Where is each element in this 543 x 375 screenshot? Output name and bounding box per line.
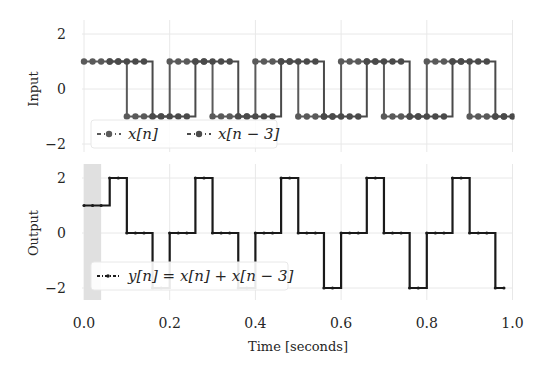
data-point [492,113,498,119]
data-point [305,231,308,234]
data-point [381,113,387,119]
data-point [278,58,284,64]
y-tick-label: −2 [45,136,66,152]
data-point [501,113,507,119]
legend-label-x: x[n] [128,125,158,143]
legend-label-xdelay: x[n − 3] [218,125,280,143]
data-point [100,204,103,207]
x-tick-label: 0.0 [73,315,95,331]
data-point [424,58,430,64]
data-point [175,58,181,64]
data-point [441,58,447,64]
data-point [425,231,428,234]
data-point [211,231,214,234]
data-point [115,58,121,64]
data-point [449,58,455,64]
data-point [389,58,395,64]
data-point [417,286,420,289]
y-tick-label: 0 [57,81,66,97]
data-point [475,58,481,64]
input-yticks: 20−2 [45,26,66,152]
data-point [82,204,85,207]
data-point [381,58,387,64]
data-point [226,58,232,64]
data-point [288,176,291,179]
data-point [124,113,130,119]
data-point [484,58,490,64]
data-point [329,113,335,119]
data-point [192,58,198,64]
data-point [158,113,164,119]
data-point [269,58,275,64]
data-point [415,113,421,119]
data-point [228,231,231,234]
data-point [372,58,378,64]
x-tick-label: 0.2 [159,315,181,331]
data-point [280,176,283,179]
data-point [314,231,317,234]
data-point [167,113,173,119]
data-point [432,58,438,64]
data-point [441,113,447,119]
data-point [357,231,360,234]
data-point [297,231,300,234]
data-point [312,113,318,119]
data-point [321,113,327,119]
data-point [209,113,215,119]
data-point [262,231,265,234]
data-point [304,113,310,119]
data-point [269,113,275,119]
data-point [117,176,120,179]
data-point [194,176,197,179]
data-point [477,231,480,234]
y-tick-label: 0 [57,225,66,241]
data-point [185,231,188,234]
data-point [331,286,334,289]
data-point [261,113,267,119]
x-ticks: 0.00.20.40.60.81.0 [73,315,524,331]
data-point [424,113,430,119]
data-point [348,231,351,234]
data-point [434,231,437,234]
x-tick-label: 0.6 [330,315,352,331]
data-point [218,113,224,119]
data-point [226,113,232,119]
x-tick-label: 0.8 [416,315,438,331]
data-point [81,58,87,64]
data-point [202,176,205,179]
data-point [466,58,472,64]
data-point [459,176,462,179]
data-point [201,58,207,64]
data-point [142,231,145,234]
data-point [494,286,497,289]
legend-label-y: y[n] = x[n] + x[n − 3] [127,267,293,285]
data-point [235,113,241,119]
data-point [252,113,258,119]
data-point [295,113,301,119]
data-point [355,113,361,119]
data-point [209,58,215,64]
data-point [338,58,344,64]
data-point [408,286,411,289]
data-point [389,113,395,119]
data-point [399,231,402,234]
data-point [398,58,404,64]
x-axis-label: Time [seconds] [248,339,348,354]
data-point [295,58,301,64]
data-point [458,58,464,64]
data-point [442,231,445,234]
data-point [168,231,171,234]
data-point [468,231,471,234]
input-legend: x[n] x[n − 3] [91,120,280,148]
data-point [107,58,113,64]
data-point [304,58,310,64]
data-point [382,231,385,234]
x-tick-label: 0.4 [244,315,266,331]
data-point [340,231,343,234]
data-point [108,176,111,179]
data-point [502,286,505,289]
data-point [218,58,224,64]
data-point [484,113,490,119]
data-point [175,113,181,119]
data-point [125,231,128,234]
